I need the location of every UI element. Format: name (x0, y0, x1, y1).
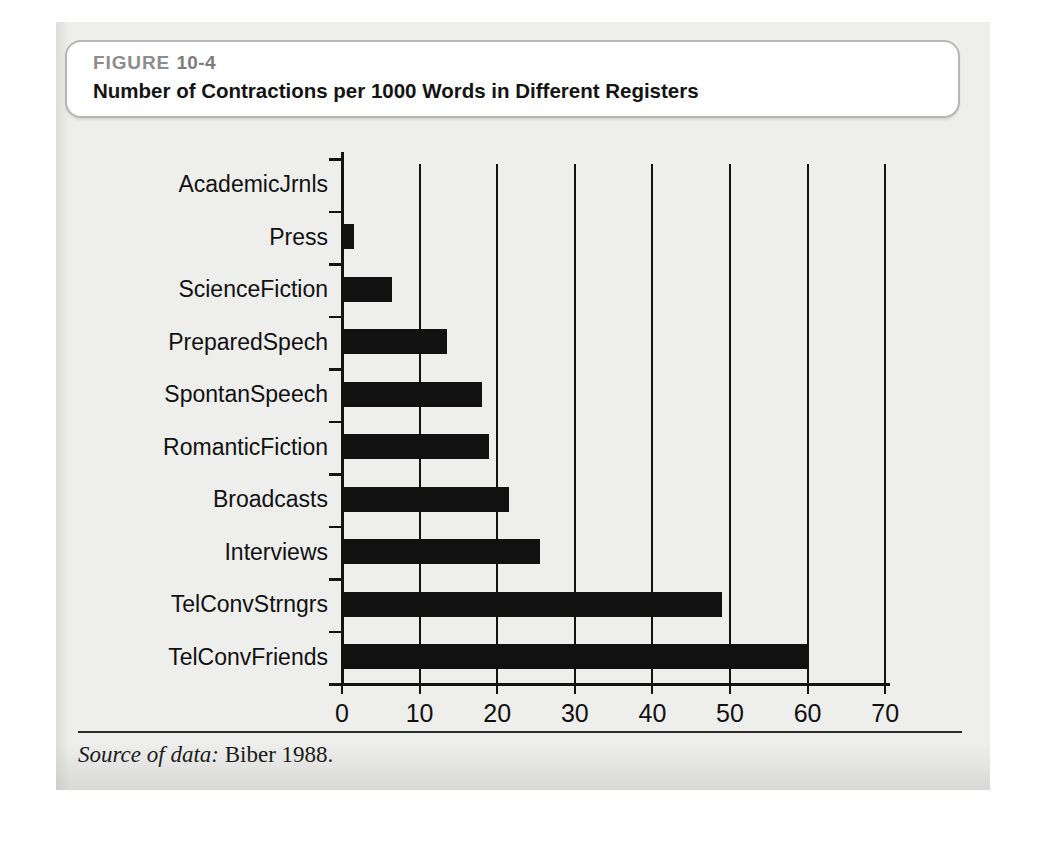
category-label-academicjrnls: AcademicJrnls (178, 171, 328, 198)
category-label-interviews: Interviews (224, 538, 328, 565)
bar-chart: AcademicJrnlsPressScienceFictionPrepared… (56, 126, 990, 696)
x-tick-label-50: 50 (716, 699, 744, 728)
category-label-broadcasts: Broadcasts (213, 486, 328, 513)
x-tick-label-30: 30 (561, 699, 589, 728)
y-tick-3 (329, 316, 342, 319)
gridline-60 (807, 164, 809, 683)
bar-interviews (342, 539, 540, 564)
y-tick-8 (329, 578, 342, 581)
x-tick-label-0: 0 (335, 699, 349, 728)
category-label-press: Press (269, 223, 328, 250)
category-label-preparedspech: PreparedSpech (168, 328, 328, 355)
figure-panel: FIGURE 10-4 Number of Contractions per 1… (56, 22, 990, 790)
x-tick-40 (651, 683, 653, 694)
category-label-spontanspeech: SpontanSpeech (164, 381, 328, 408)
plot-area: 010203040506070 (342, 158, 885, 683)
figure-caption-title: Number of Contractions per 1000 Words in… (93, 78, 958, 105)
figure-number: 10-4 (176, 52, 216, 73)
figure-label-word: FIGURE (93, 52, 170, 73)
bar-spontanspeech (342, 382, 482, 407)
bar-telconvstrngrs (342, 592, 722, 617)
y-tick-4 (329, 368, 342, 371)
category-label-sciencefiction: ScienceFiction (178, 276, 328, 303)
x-tick-30 (574, 683, 576, 694)
gridline-50 (729, 164, 731, 683)
category-label-telconvfriends: TelConvFriends (168, 643, 328, 670)
bar-telconvfriends (342, 644, 808, 669)
x-tick-label-70: 70 (871, 699, 899, 728)
y-tick-5 (329, 421, 342, 424)
bar-romanticfiction (342, 434, 489, 459)
x-tick-20 (496, 683, 498, 694)
x-tick-label-60: 60 (794, 699, 822, 728)
y-tick-0 (329, 158, 342, 161)
y-tick-9 (329, 631, 342, 634)
source-note-lead: Source of data: (78, 742, 219, 767)
figure-label: FIGURE 10-4 (93, 51, 958, 75)
y-tick-7 (329, 526, 342, 529)
source-note: Source of data: Biber 1988. (78, 742, 333, 768)
y-tick-1 (329, 211, 342, 214)
source-divider (78, 731, 962, 733)
y-tick-2 (329, 263, 342, 266)
figure-caption-box: FIGURE 10-4 Number of Contractions per 1… (65, 40, 960, 118)
x-tick-70 (884, 683, 886, 694)
x-tick-label-40: 40 (638, 699, 666, 728)
x-tick-50 (729, 683, 731, 694)
source-note-text: Biber 1988. (225, 742, 334, 767)
category-label-telconvstrngrs: TelConvStrngrs (171, 591, 328, 618)
x-tick-60 (807, 683, 809, 694)
gridline-70 (884, 164, 886, 683)
bar-press (342, 224, 354, 249)
x-tick-label-10: 10 (406, 699, 434, 728)
bar-broadcasts (342, 487, 509, 512)
category-label-romanticfiction: RomanticFiction (163, 433, 328, 460)
bar-sciencefiction (342, 277, 392, 302)
y-tick-10 (329, 683, 342, 686)
bar-preparedspech (342, 329, 447, 354)
bar-academicjrnls (342, 172, 344, 197)
category-axis-labels: AcademicJrnlsPressScienceFictionPrepared… (56, 158, 328, 683)
y-tick-6 (329, 473, 342, 476)
x-tick-label-20: 20 (483, 699, 511, 728)
x-tick-10 (419, 683, 421, 694)
